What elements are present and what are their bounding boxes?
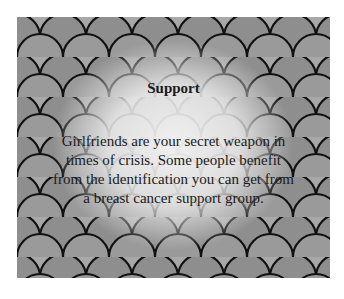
support-card: Support Girlfriends are your secret weap… bbox=[17, 17, 330, 278]
card-title: Support bbox=[17, 80, 330, 97]
card-body: Girlfriends are your secret weapon in ti… bbox=[53, 132, 294, 208]
